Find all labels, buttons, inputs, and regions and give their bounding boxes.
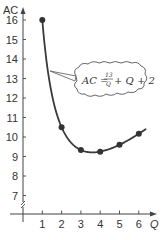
formula-denominator: Q bbox=[106, 80, 111, 87]
y-axis-arrow-icon bbox=[21, 7, 26, 14]
formula-numerator: 13 bbox=[105, 71, 113, 78]
y-tick-label: 12 bbox=[6, 92, 18, 104]
x-tick-label: 2 bbox=[59, 218, 65, 230]
data-point bbox=[136, 131, 142, 137]
x-tick-label: 4 bbox=[97, 218, 103, 230]
y-tick-label: 7 bbox=[12, 190, 18, 202]
average-cost-chart: 78910111213141516 123456 AC Q AC = 13 Q … bbox=[0, 0, 163, 240]
x-axis-arrow-icon bbox=[150, 212, 157, 217]
axes bbox=[10, 7, 157, 222]
data-point bbox=[59, 124, 65, 130]
y-tick-label: 11 bbox=[7, 112, 18, 124]
data-point bbox=[117, 142, 123, 148]
y-axis-label: AC bbox=[3, 4, 18, 16]
y-tick-label: 14 bbox=[6, 53, 18, 65]
data-point bbox=[97, 149, 103, 155]
x-tick-label: 1 bbox=[39, 218, 45, 230]
y-tick-label: 10 bbox=[6, 131, 18, 143]
callout-pointer bbox=[50, 71, 76, 81]
y-tick-label: 8 bbox=[12, 170, 18, 182]
x-tick-label: 6 bbox=[136, 218, 142, 230]
data-point bbox=[39, 17, 45, 23]
data-point bbox=[78, 147, 84, 153]
x-tick-label: 3 bbox=[78, 218, 84, 230]
formula-callout: AC = 13 Q + Q + 2 bbox=[50, 62, 155, 97]
formula-rhs: + Q + 2 bbox=[114, 75, 155, 86]
y-tick-label: 9 bbox=[12, 151, 18, 163]
x-tick-label: 5 bbox=[116, 218, 122, 230]
y-tick-label: 15 bbox=[6, 34, 18, 46]
y-tick-label: 13 bbox=[6, 73, 18, 85]
x-axis-ticks: 123456 bbox=[39, 211, 142, 231]
x-axis-label: Q bbox=[150, 218, 159, 230]
